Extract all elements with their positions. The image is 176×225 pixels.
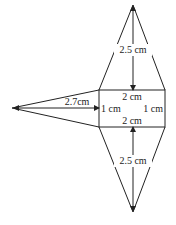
left-height-label: 2.7cm [65,96,90,107]
rect-bottom-label: 2 cm [122,115,142,126]
top-height-label: 2.5 cm [119,44,146,55]
pyramid-net-diagram: 2.5 cm 2.5 cm 2.7cm 2 cm 2 cm 1 cm 1 cm [0,0,176,225]
rect-right-label: 1 cm [143,103,163,114]
bottom-triangle [99,127,165,212]
rect-top-label: 2 cm [122,91,142,102]
bottom-height-label: 2.5 cm [119,155,146,166]
rect-left-label: 1 cm [101,103,121,114]
